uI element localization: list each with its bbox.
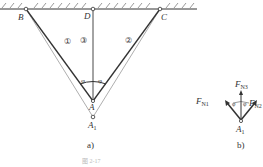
subfigure-label-a: a) bbox=[87, 141, 94, 150]
bar-2 bbox=[93, 9, 160, 101]
pin-C bbox=[158, 7, 162, 11]
bars bbox=[26, 9, 160, 101]
force-label-FN3: FN3 bbox=[235, 80, 248, 90]
member-label-1: ① bbox=[64, 38, 71, 46]
subfigure-label-b: b) bbox=[237, 141, 245, 150]
point-label-A1: A1 bbox=[88, 121, 97, 131]
angle-label-right: φ bbox=[98, 78, 102, 85]
force-label-FN2: FN2 bbox=[249, 99, 262, 109]
pin-D bbox=[91, 7, 95, 11]
fbd-node-label: A1 bbox=[236, 125, 245, 135]
fixed-support-ceiling bbox=[0, 3, 197, 9]
figure-caption: 图 2-17 bbox=[82, 158, 101, 164]
diagram-canvas bbox=[0, 0, 263, 167]
bar-1 bbox=[26, 9, 93, 101]
point-label-B: B bbox=[18, 13, 24, 22]
point-label-D: D bbox=[84, 12, 91, 21]
member-label-2: ② bbox=[125, 37, 132, 45]
fbd-angle-left: φ bbox=[232, 101, 235, 107]
point-label-A: A bbox=[89, 103, 95, 112]
fbd-angle-right: φ bbox=[243, 101, 246, 107]
pin-B bbox=[24, 7, 28, 11]
angle-label-left: φ bbox=[81, 78, 85, 85]
pin-A1 bbox=[91, 115, 95, 119]
point-label-C: C bbox=[161, 13, 167, 22]
force-label-FN1: FN1 bbox=[196, 97, 209, 107]
member-label-3: ③ bbox=[80, 37, 87, 45]
